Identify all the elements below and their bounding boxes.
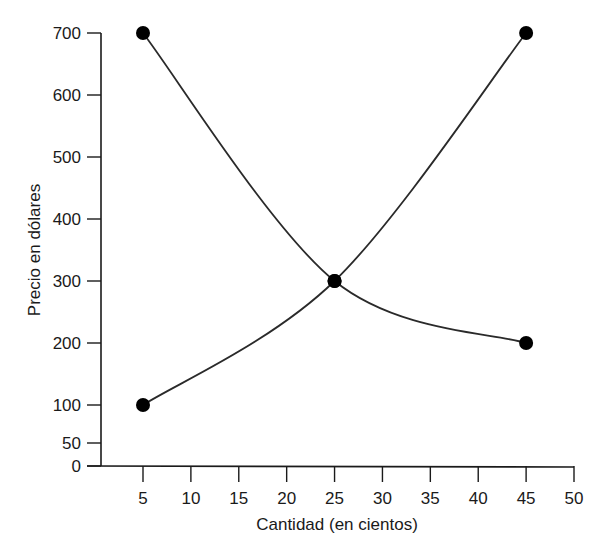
x-tick-label: 35 — [421, 489, 440, 508]
data-markers — [136, 26, 533, 412]
x-axis: 5101520253035404550 — [87, 466, 583, 508]
data-point-marker — [519, 336, 533, 350]
x-tick-label: 10 — [181, 489, 200, 508]
data-point-marker — [519, 26, 533, 40]
ascending-curve — [143, 33, 526, 405]
data-point-marker — [136, 398, 150, 412]
data-point-marker — [328, 274, 342, 288]
y-tick-label: 100 — [53, 396, 81, 415]
curves — [143, 33, 526, 405]
x-tick-label: 45 — [517, 489, 536, 508]
y-axis: 050100200300400500600700 — [53, 24, 101, 476]
x-axis-title: Cantidad (en cientos) — [256, 515, 418, 534]
y-tick-label: 300 — [53, 272, 81, 291]
x-tick-label: 5 — [138, 489, 147, 508]
y-tick-label: 600 — [53, 86, 81, 105]
x-tick-label: 40 — [469, 489, 488, 508]
y-tick-label: 50 — [62, 434, 81, 453]
x-tick-label: 25 — [325, 489, 344, 508]
y-tick-label: 0 — [72, 457, 81, 476]
x-tick-label: 15 — [229, 489, 248, 508]
descending-curve — [143, 33, 526, 343]
y-tick-label: 200 — [53, 334, 81, 353]
x-tick-label: 20 — [277, 489, 296, 508]
chart: 050100200300400500600700 510152025303540… — [0, 0, 595, 548]
y-tick-label: 500 — [53, 148, 81, 167]
x-tick-label: 30 — [373, 489, 392, 508]
y-tick-label: 700 — [53, 24, 81, 43]
x-tick-label: 50 — [565, 489, 584, 508]
data-point-marker — [136, 26, 150, 40]
y-tick-label: 400 — [53, 210, 81, 229]
y-axis-title: Precio en dólares — [25, 184, 44, 316]
